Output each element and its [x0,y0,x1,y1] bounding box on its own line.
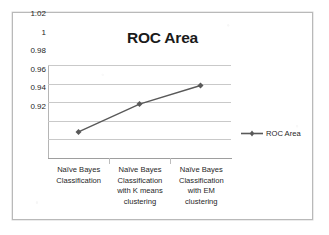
y-axis-tick-label: 1.02 [14,9,46,18]
series-data-point [198,82,204,88]
legend-entry-label: ROC Area [266,129,301,138]
y-axis-tick-label: 0.98 [14,46,46,55]
chart-legend: ROC Area [241,129,301,138]
legend-line-marker-icon [241,129,263,138]
series-roc-area [48,65,231,158]
series-line [79,85,201,131]
x-axis-line [48,158,232,159]
series-data-point [137,101,143,107]
y-axis-labels: 1.02 1 0.98 0.96 0.94 0.92 [13,13,46,219]
x-axis-tick [170,158,171,164]
x-axis-category-labels: Naïve Bayes Classification Naïve Bayes C… [48,165,232,217]
chart-frame: ROC Area 1.02 1 0.98 0.96 0.94 0.92 Naïv… [12,12,313,220]
x-axis-category-label: Naïve Bayes Classification with K means … [109,165,170,217]
y-axis-tick-label: 1 [14,27,46,36]
y-axis-tick-label: 0.94 [14,83,46,92]
y-axis-tick-label: 0.96 [14,64,46,73]
x-axis-category-label: Naïve Bayes Classification with EM clust… [171,165,232,217]
series-data-point [76,129,82,135]
chart-title: ROC Area [13,29,312,47]
x-axis-category-label: Naïve Bayes Classification [48,165,109,217]
x-axis-tick [109,158,110,164]
plot-area [48,65,231,158]
y-axis-tick-label: 0.92 [14,102,46,111]
